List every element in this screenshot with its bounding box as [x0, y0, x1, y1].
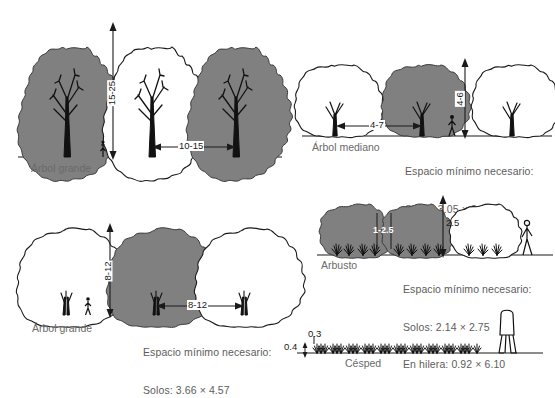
- large-tree-plan-drawing: [0, 205, 300, 335]
- lawn-depth-dimension-arrow: [303, 342, 308, 358]
- scale-figure-person: [522, 220, 532, 255]
- shrub-caption-line-1: Espacio mínimo necesario:: [403, 283, 532, 296]
- large-tree-spacing-label: 10-15: [178, 141, 204, 151]
- medium-tree-height-label: 4-6: [455, 91, 465, 107]
- medium-tree-name: Árbol mediano: [312, 141, 380, 153]
- large-tree-height-label: 15-25: [107, 80, 117, 106]
- panel-lawn: 0.3 0.4 Césped: [285, 312, 555, 386]
- medium-tree-spacing-label: 4-7: [369, 120, 385, 130]
- medium-tree-outline-right: [471, 65, 555, 138]
- medium-caption-line-1: Espacio mínimo necesario:: [405, 165, 534, 178]
- large-tree-elevation-drawing: [0, 0, 290, 180]
- lawn-grass-row: [313, 344, 481, 353]
- plan-caption-line-2: Solos: 3.66 × 4.57: [143, 384, 272, 397]
- panel-large-tree-elevation: 15-25 10-15 Árbol grande: [0, 0, 290, 180]
- lawn-name: Césped: [345, 357, 381, 369]
- shrub-outline-right: [449, 204, 522, 258]
- shrub-spacing-label: 1-2.5: [372, 225, 395, 235]
- lawn-depth-label: 0.4: [283, 342, 298, 352]
- lawn-drawing: [285, 312, 555, 372]
- shrub-drawing: [315, 193, 555, 265]
- lawn-height-label: 0.3: [307, 329, 322, 339]
- plan-caption-line-1: Espacio mínimo necesario:: [143, 346, 272, 359]
- shrub-name: Arbusto: [321, 259, 357, 271]
- tree-filled-right: [186, 47, 292, 181]
- panel-shrub: 1-2.5 2.5 Arbusto Espacio mínimo necesar…: [315, 193, 555, 313]
- plan-tree-spacing-label: 8-12: [187, 300, 208, 310]
- plan-tree-caption: Espacio mínimo necesario: Solos: 3.66 × …: [143, 321, 272, 398]
- panel-medium-tree: 4-7 4-6 Árbol mediano Espacio mínimo nec…: [300, 48, 555, 193]
- large-tree-elevation-name: Árbol grande: [31, 162, 91, 174]
- panel-large-tree-plan: 8-12 8-12 Árbol grande Espacio mínimo ne…: [0, 205, 300, 365]
- scale-figure-person: [499, 310, 517, 353]
- plan-tree-name: Árbol grande: [32, 322, 92, 334]
- plan-tree-height-label: 8-12: [103, 260, 113, 281]
- shrub-height-label: 2.5: [445, 218, 460, 228]
